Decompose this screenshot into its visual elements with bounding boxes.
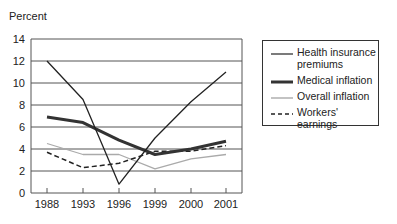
tick-labels: 02468101214198819931996199920002001 (13, 33, 238, 210)
legend-item-medical-inflation: Medical inflation (263, 74, 378, 86)
svg-text:2: 2 (19, 165, 25, 177)
svg-text:12: 12 (13, 55, 25, 67)
svg-text:14: 14 (13, 33, 25, 45)
svg-text:1999: 1999 (143, 198, 167, 210)
gray-line-swatch-icon (271, 96, 293, 100)
line-chart: 02468101214198819931996199920002001 (0, 0, 260, 224)
svg-text:1988: 1988 (35, 198, 59, 210)
chart-legend: Health insurance premiums Medical inflat… (262, 40, 379, 126)
svg-text:8: 8 (19, 99, 25, 111)
axes (31, 39, 242, 193)
legend-item-health-premiums: Health insurance premiums (263, 46, 378, 70)
thin-line-swatch-icon (271, 52, 293, 56)
svg-text:0: 0 (19, 187, 25, 199)
svg-text:2000: 2000 (179, 198, 203, 210)
svg-text:6: 6 (19, 121, 25, 133)
svg-text:2001: 2001 (214, 198, 238, 210)
svg-text:1996: 1996 (107, 198, 131, 210)
series-lines (47, 61, 226, 184)
gridlines (31, 39, 242, 171)
thick-line-swatch-icon (271, 80, 293, 84)
legend-item-overall-inflation: Overall inflation (263, 90, 378, 102)
svg-text:10: 10 (13, 77, 25, 89)
svg-text:1993: 1993 (71, 198, 95, 210)
dashed-line-swatch-icon (271, 112, 293, 116)
svg-text:4: 4 (19, 143, 25, 155)
legend-item-workers-earnings: Workers' earnings (263, 106, 378, 130)
